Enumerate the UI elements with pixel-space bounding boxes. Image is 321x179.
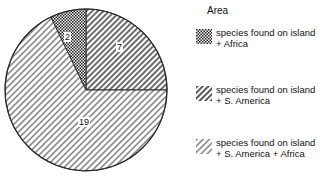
legend-swatch-hatch-light-icon [196,139,212,154]
legend-label-africa-line1: species found on island [216,27,315,38]
legend-label-africa: species found on island + Africa [216,27,315,49]
legend-swatch-hatch-medium-icon [196,86,212,101]
legend-label-s-america-africa: species found on island + S. America + A… [216,137,315,159]
legend-label-s-america-africa-line2: + S. America + Africa [216,148,315,159]
pie-slice-label-7: 7 [116,42,123,52]
pie-slice-7 [86,9,167,90]
legend-swatch-checkerboard-icon [196,29,212,44]
legend-label-s-america-line2: + S. America [216,95,315,106]
legend-label-s-america: species found on island + S. America [216,84,315,106]
legend: Area species found on island + Africa sp… [195,0,321,179]
pie-slice-label-2: 2 [64,32,71,42]
legend-title: Area [207,5,228,16]
pie-slice-label-19: 19 [78,117,90,127]
pie-chart-svg [0,0,190,179]
legend-label-s-america-line1: species found on island [216,84,315,95]
legend-label-s-america-africa-line1: species found on island [216,137,315,148]
pie-chart: 2 7 19 [0,0,190,179]
chart-root: 2 7 19 Area species found on island + Af… [0,0,321,179]
legend-label-africa-line2: + Africa [216,38,315,49]
